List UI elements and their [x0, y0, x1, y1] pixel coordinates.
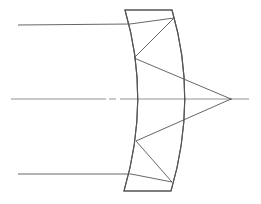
lower-ray [18, 99, 231, 182]
upper-ray [18, 18, 231, 99]
focal-point [230, 98, 232, 100]
mangin-mirror-diagram [0, 0, 261, 204]
